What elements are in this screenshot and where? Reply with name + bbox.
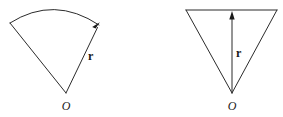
sector-left-radius [10, 23, 66, 93]
triangle-left-side [186, 10, 232, 93]
sector-center-label: O [62, 99, 71, 113]
triangle-center-label: O [228, 99, 237, 113]
geometry-figure-canvas: r O r O [0, 0, 283, 117]
triangle-median-arrowhead [229, 11, 234, 20]
triangle-radius-label: r [236, 46, 242, 60]
sector-arc [10, 9, 99, 25]
circular-sector-figure: r O [10, 9, 100, 113]
sector-radius-label: r [88, 49, 94, 63]
triangle-figure: r O [186, 10, 277, 113]
